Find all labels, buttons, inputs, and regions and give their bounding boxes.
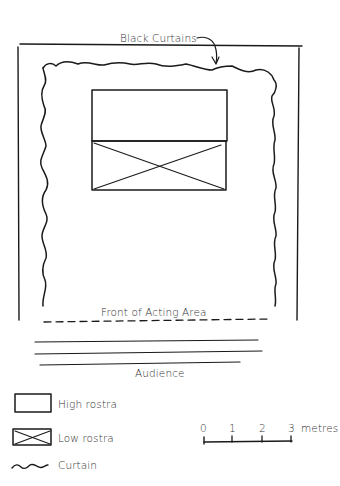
high-rostra-legend-icon xyxy=(15,394,51,412)
front-of-acting-area-line xyxy=(44,319,270,322)
scale-tick-2: 2 xyxy=(259,422,266,434)
low-rostra-legend-icon xyxy=(13,429,51,445)
scale-unit: metres xyxy=(301,422,338,434)
arrow-icon xyxy=(197,37,219,64)
scale-tick-3: 3 xyxy=(288,422,295,434)
legend: High rostra Low rostra Curtain xyxy=(12,394,117,471)
curtain-legend-icon xyxy=(12,464,48,468)
front-of-acting-area-label: Front of Acting Area xyxy=(101,306,207,318)
legend-label-low-rostra: Low rostra xyxy=(58,432,114,444)
legend-item-high-rostra: High rostra xyxy=(15,394,117,412)
scale-tick-1: 1 xyxy=(229,422,236,434)
scale-tick-0: 0 xyxy=(200,422,207,434)
black-curtains xyxy=(43,62,276,306)
high-rostra xyxy=(92,90,227,141)
black-curtains-left xyxy=(41,68,48,306)
stage-plan-diagram: Black Curtains Front of Acting Area Audi… xyxy=(0,0,340,486)
legend-label-curtain: Curtain xyxy=(58,459,97,471)
legend-label-high-rostra: High rostra xyxy=(58,398,117,410)
black-curtains-label: Black Curtains xyxy=(120,32,197,44)
low-rostra xyxy=(92,141,226,190)
legend-item-low-rostra: Low rostra xyxy=(13,429,114,445)
audience-label: Audience xyxy=(135,367,185,379)
scale-bar: 0 1 2 3 metres xyxy=(200,422,338,444)
outer-wall xyxy=(18,44,302,320)
audience-seating-lines xyxy=(35,340,262,365)
legend-item-curtain: Curtain xyxy=(12,459,97,471)
